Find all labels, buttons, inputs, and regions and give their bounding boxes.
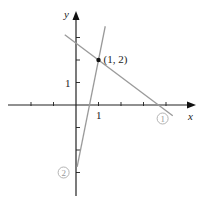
y-axis-arrow-icon bbox=[73, 11, 80, 20]
line-2-label: 2 bbox=[58, 167, 69, 178]
y-axis-label: y bbox=[63, 8, 69, 20]
x-tick-label: 1 bbox=[96, 109, 102, 121]
x-axis-arrow-icon bbox=[187, 102, 196, 109]
label-text: 1 bbox=[160, 114, 165, 124]
point-label: (1, 2) bbox=[104, 53, 128, 66]
x-axis-label: x bbox=[187, 110, 193, 122]
intersection-point bbox=[96, 58, 100, 62]
label-text: 2 bbox=[61, 168, 66, 178]
line-1 bbox=[65, 35, 173, 116]
y-tick-label: 1 bbox=[65, 77, 71, 89]
coordinate-diagram: (1, 2) y x 1 1 12 bbox=[0, 0, 208, 201]
line-1-label: 1 bbox=[157, 113, 168, 124]
